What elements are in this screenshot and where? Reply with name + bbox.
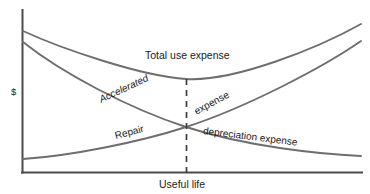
annotation-total-use-expense: Total use expense (145, 50, 230, 61)
chart-canvas (0, 0, 370, 194)
y-axis-label: $ (11, 87, 16, 97)
chart-figure: $ Total use expense Accelerated expense … (0, 0, 370, 194)
x-axis-label: Useful life (159, 179, 205, 190)
